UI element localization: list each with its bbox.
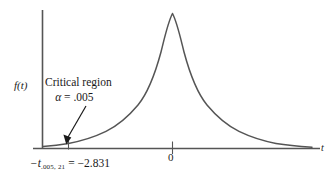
critical-value-subscript: .005, 21 <box>41 163 65 171</box>
alpha-symbol: α <box>55 91 61 103</box>
t-distribution-figure: f(t) Critical region α = .005 0 t −t.005… <box>0 0 332 189</box>
alpha-equals-sign: = <box>64 91 71 103</box>
critical-value-number: −2.831 <box>78 157 110 169</box>
x-axis-tick-label-zero: 0 <box>168 152 174 163</box>
alpha-value: .005 <box>73 91 93 103</box>
y-axis-label: f(t) <box>14 80 27 91</box>
alpha-annotation: α = .005 <box>45 92 112 104</box>
critical-value-label: −t.005, 21 = −2.831 <box>30 158 110 171</box>
x-axis-label: t <box>321 143 324 153</box>
critical-region-annotation-line1: Critical region <box>45 77 112 89</box>
critical-value-equals-sign: = <box>68 157 75 169</box>
critical-value-prefix: −t <box>30 157 41 169</box>
critical-region-arrow-shaft <box>68 106 87 138</box>
critical-region-annotation: Critical region α = .005 <box>45 77 112 103</box>
